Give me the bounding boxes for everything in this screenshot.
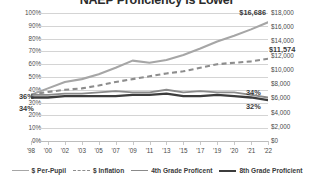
chart-container: NAEP Proficiency is Lower 100%90%80%70%6… [0,0,314,179]
legend-label-inflation: $ Inflation [93,167,124,174]
y2-axis-tick-label: $0 [271,137,313,145]
y2-axis-tick-label: $8,000 [271,80,313,88]
annotation-4th-grade-end: 34% [246,88,261,98]
legend-item-8th-grade[interactable]: 8th Grade Proficient [219,167,302,174]
y2-axis-tick-label: $4,000 [271,109,313,117]
page-title: NAEP Proficiency is Lower [0,0,314,7]
plot-area: $16,686 $11,574 36% 34% 34% 32% [31,13,268,141]
legend-item-inflation[interactable]: $ Inflation [73,167,124,174]
y2-axis-tick-label: $2,000 [271,123,313,131]
series-line-8th-grade [31,94,268,100]
annotation-per-pupil-end: $16,686 [239,8,266,18]
legend-label-8th-grade: 8th Grade Proficient [239,167,302,174]
y2-axis-tick-label: $18,000 [271,9,313,17]
y2-axis-tick-label: $10,000 [271,66,313,74]
legend-item-per-pupil[interactable]: $ Per-Pupil [12,167,66,174]
legend-item-4th-grade[interactable]: 4th Grade Proficent [131,167,212,174]
series-line-inflation [31,59,268,95]
gridline [31,141,268,142]
series-line-per-pupil [31,22,268,94]
annotation-4th-grade-start: 36% [19,92,34,102]
legend-label-per-pupil: $ Per-Pupil [32,167,66,174]
legend-label-4th-grade: 4th Grade Proficent [151,167,212,174]
annotation-inflation-end: $11,574 [269,45,295,55]
x-axis-tick-label: '22 [257,146,279,155]
annotation-8th-grade-start: 34% [19,104,34,114]
x-axis-tick-mark [268,141,269,145]
y2-axis-tick-label: $6,000 [271,94,313,102]
chart-legend: $ Per-Pupil $ Inflation 4th Grade Profic… [0,163,314,177]
series-layer [31,13,268,141]
annotation-8th-grade-end: 32% [246,102,261,112]
y2-axis-tick-label: $16,000 [271,23,313,31]
